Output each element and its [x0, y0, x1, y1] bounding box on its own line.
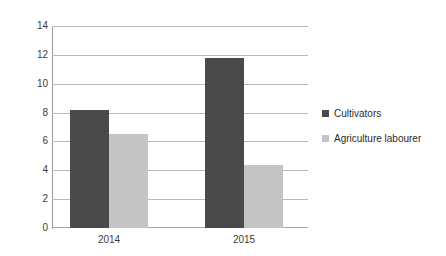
- y-tick-label: 12: [8, 50, 48, 60]
- x-tick-label: 2014: [79, 234, 139, 246]
- gridline-12: [52, 55, 308, 56]
- y-tick-label: 8: [8, 108, 48, 118]
- bar-2015-agriculture-labourer: [244, 165, 283, 228]
- legend-label: Agriculture labourer: [334, 133, 421, 144]
- y-tick-label: 4: [8, 165, 48, 175]
- y-tick-label: 2: [8, 194, 48, 204]
- y-axis-tick-labels: 02468101214: [0, 0, 48, 256]
- legend-label: Cultivators: [334, 108, 381, 119]
- bar-chart: 02468101214 20142015 CultivatorsAgricult…: [0, 0, 446, 256]
- chart-legend: CultivatorsAgriculture labourer: [322, 108, 442, 158]
- y-tick-label: 0: [8, 223, 48, 233]
- legend-item-agriculture-labourer[interactable]: Agriculture labourer: [322, 133, 442, 144]
- gridline-10: [52, 84, 308, 85]
- x-tick-label: 2015: [214, 234, 274, 246]
- legend-swatch-icon: [322, 135, 329, 142]
- y-tick-label: 6: [8, 136, 48, 146]
- plot-area: [52, 26, 308, 228]
- gridline-14: [52, 26, 308, 27]
- legend-item-cultivators[interactable]: Cultivators: [322, 108, 442, 119]
- y-tick-label: 14: [8, 21, 48, 31]
- y-tick-label: 10: [8, 79, 48, 89]
- bar-2014-cultivators: [70, 110, 109, 228]
- bar-2014-agriculture-labourer: [109, 134, 148, 228]
- bar-2015-cultivators: [205, 58, 244, 228]
- legend-swatch-icon: [322, 110, 329, 117]
